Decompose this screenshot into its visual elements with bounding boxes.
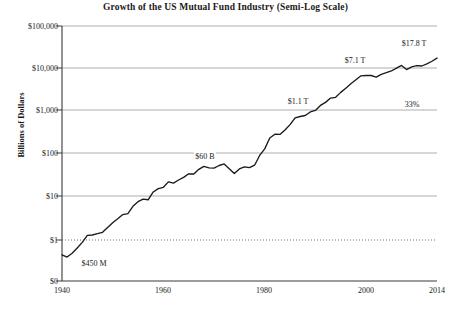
x-tick-label: 2014 xyxy=(429,286,445,295)
x-tick-label: 1960 xyxy=(155,286,171,295)
annotation-33-percent: 33% xyxy=(403,100,421,109)
x-tick-label: 1940 xyxy=(54,286,70,295)
annotation-17-8t: $17.8 T xyxy=(400,39,428,48)
x-tick-label: 2000 xyxy=(358,286,374,295)
axes xyxy=(56,26,437,281)
annotation-1-1t: $1.1 T xyxy=(286,97,310,106)
chart-plot-area xyxy=(0,0,451,312)
annotation-7-1t: $7.1 T xyxy=(343,56,367,65)
annotation-60b: $60 B xyxy=(194,152,216,161)
chart-container: Growth of the US Mutual Fund Industry (S… xyxy=(0,0,451,312)
gridlines xyxy=(62,26,437,240)
x-tick-label: 1980 xyxy=(256,286,272,295)
annotation-450m: $450 M xyxy=(80,259,108,268)
data-series-line xyxy=(62,58,437,257)
